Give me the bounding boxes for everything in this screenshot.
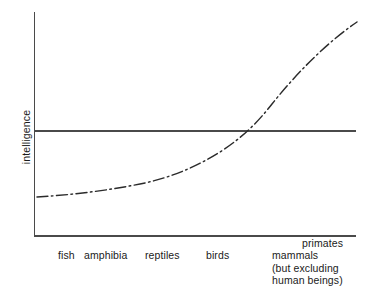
intelligence-chart-figure: intelligence fish amphibia reptiles bird…	[0, 0, 371, 296]
x-category-label-birds: birds	[206, 249, 229, 262]
x-category-label-mammals: mammals (but excluding human beings)	[272, 249, 343, 287]
y-axis-label: intelligence	[20, 87, 32, 187]
x-category-label-fish: fish	[58, 249, 75, 262]
x-category-label-amphibia: amphibia	[84, 249, 127, 262]
mammals-line-1: mammals	[272, 249, 343, 262]
intelligence-curve	[37, 22, 357, 197]
mammals-line-2: (but excluding	[272, 262, 343, 275]
x-category-label-reptiles: reptiles	[145, 249, 180, 262]
mammals-line-3: human beings)	[272, 274, 343, 287]
x-category-label-primates: primates	[302, 237, 343, 250]
